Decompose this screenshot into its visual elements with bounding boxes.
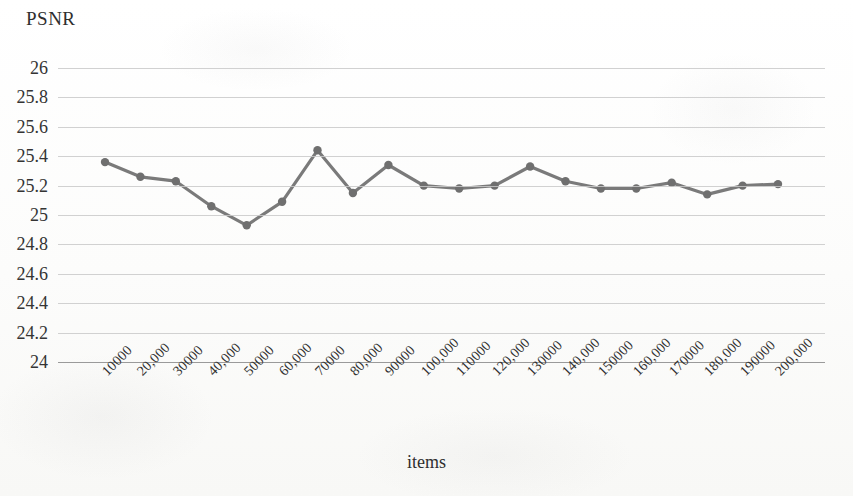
gridline xyxy=(58,244,825,245)
gridline xyxy=(58,303,825,304)
data-point-marker xyxy=(207,202,215,210)
gridline xyxy=(58,333,825,334)
y-tick-label: 25 xyxy=(0,205,48,226)
data-point-marker xyxy=(313,146,321,154)
data-point-marker xyxy=(561,177,569,185)
gridline xyxy=(58,274,825,275)
y-axis-tick-labels: 2625.825.625.425.22524.824.624.424.224 xyxy=(0,0,48,496)
data-point-marker xyxy=(278,198,286,206)
gridline xyxy=(58,97,825,98)
data-point-marker xyxy=(243,221,251,229)
data-point-marker xyxy=(774,180,782,188)
data-point-marker xyxy=(703,190,711,198)
data-point-marker xyxy=(172,177,180,185)
y-tick-label: 24 xyxy=(0,352,48,373)
y-tick-label: 25.4 xyxy=(0,146,48,167)
y-tick-label: 24.4 xyxy=(0,293,48,314)
x-axis-tick-labels: 1000020,0003000040,0005000060,0007000080… xyxy=(58,362,825,452)
y-tick-label: 24.6 xyxy=(0,263,48,284)
y-tick-label: 25.6 xyxy=(0,116,48,137)
data-point-marker xyxy=(526,162,534,170)
plot-area xyxy=(58,68,825,362)
x-axis-title: items xyxy=(0,452,853,473)
y-tick-label: 25.8 xyxy=(0,87,48,108)
y-tick-label: 26 xyxy=(0,58,48,79)
psnr-line-chart: PSNR 2625.825.625.425.22524.824.624.424.… xyxy=(0,0,853,496)
data-point-marker xyxy=(384,161,392,169)
gridline xyxy=(58,215,825,216)
gridline xyxy=(58,68,825,69)
data-point-marker xyxy=(136,173,144,181)
gridline xyxy=(58,127,825,128)
y-tick-label: 25.2 xyxy=(0,175,48,196)
data-point-marker xyxy=(349,189,357,197)
y-tick-label: 24.2 xyxy=(0,322,48,343)
gridline xyxy=(58,186,825,187)
data-point-marker xyxy=(101,158,109,166)
y-tick-label: 24.8 xyxy=(0,234,48,255)
gridline xyxy=(58,156,825,157)
